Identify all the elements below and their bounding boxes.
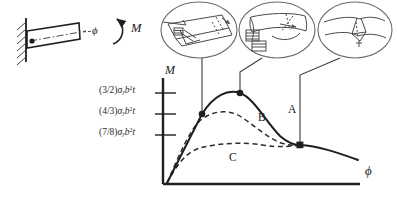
tick-4-3-num: 4 bbox=[102, 106, 107, 116]
chart-axes bbox=[155, 78, 360, 184]
leader-inset2 bbox=[240, 58, 262, 93]
inset-1-local-buckling bbox=[161, 2, 237, 58]
cantilever-beam-schematic bbox=[17, 18, 123, 65]
figure-moment-rotation-diagram: ϕ M M ϕ (3/2)σyb2t (4/3)σyb2t (7/8)σyb2t… bbox=[0, 0, 397, 206]
figure-canvas bbox=[0, 0, 397, 206]
schematic-phi-label: ϕ bbox=[92, 24, 98, 36]
curve-A bbox=[167, 92, 358, 183]
pivot-dot bbox=[29, 38, 34, 43]
inset-leader-lines bbox=[202, 58, 340, 145]
inset-2-buckle-growth bbox=[239, 2, 315, 58]
curve-label-C: C bbox=[229, 151, 237, 163]
wall-hatch-icon bbox=[17, 22, 26, 65]
x-axis-label: ϕ bbox=[365, 163, 372, 179]
curve-label-A: A bbox=[288, 103, 296, 115]
schematic-moment-label: M bbox=[131, 21, 141, 36]
y-axis-ticks bbox=[155, 93, 176, 135]
tick-4-3-den: 3 bbox=[110, 106, 115, 116]
curve-B bbox=[167, 112, 300, 183]
tick-3-2-den: 2 bbox=[110, 85, 115, 95]
tick-label-3-2: (3/2)σyb2t bbox=[99, 85, 135, 95]
marker-collapse bbox=[296, 142, 303, 149]
y-axis-label: M bbox=[165, 63, 175, 78]
tick-7-8-den: 8 bbox=[110, 127, 115, 137]
leader-inset3 bbox=[300, 58, 340, 145]
curve-label-B: B bbox=[258, 111, 266, 123]
tick-3-2-num: 3 bbox=[102, 85, 107, 95]
marker-yield-onset bbox=[199, 111, 206, 118]
tick-label-4-3: (4/3)σyb2t bbox=[99, 106, 135, 116]
curve-C bbox=[167, 143, 300, 183]
beam-body bbox=[27, 23, 80, 48]
marker-peak bbox=[237, 90, 244, 97]
inset-3-collapse-mechanism bbox=[318, 2, 392, 58]
moment-arrow-icon bbox=[113, 19, 123, 44]
tick-label-7-8: (7/8)σyb2t bbox=[99, 127, 135, 137]
tick-7-8-num: 7 bbox=[102, 127, 107, 137]
